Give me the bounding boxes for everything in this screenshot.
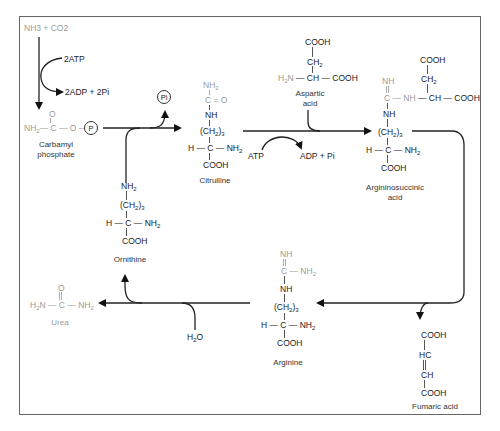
bond xyxy=(209,90,210,95)
bond xyxy=(425,360,426,370)
bond xyxy=(386,86,387,93)
asa-ch2-3: (CH2)3 xyxy=(378,127,403,137)
bond xyxy=(283,259,284,266)
arginine-cnh2: C — NH2 xyxy=(281,266,316,276)
asa-hcnh2: H — C — NH2 xyxy=(366,145,420,155)
adp-label: 2ADP + 2Pi xyxy=(65,87,109,97)
asa-label-2: acid xyxy=(355,193,435,203)
fumaric-hc: HC xyxy=(419,350,431,360)
water-label: H2O xyxy=(187,332,203,342)
aspartic-label-1: Aspartic xyxy=(285,89,335,99)
carbamyl-formula: NH2— C — O — xyxy=(24,123,87,133)
bond xyxy=(427,65,428,74)
citrulline-co: C = O xyxy=(205,95,227,105)
bond xyxy=(209,137,210,143)
pi-circle: Pi xyxy=(157,90,171,104)
bond xyxy=(388,86,389,93)
bond xyxy=(209,153,210,160)
bond xyxy=(59,292,60,300)
ornithine-hcnh2: H — C — NH2 xyxy=(106,218,160,228)
asa-ch2: CH2 xyxy=(421,74,437,84)
ornithine-label: Ornithine xyxy=(105,255,155,265)
bond xyxy=(387,119,388,127)
bond xyxy=(312,66,313,73)
asa-nh-imine: NH xyxy=(382,76,394,86)
asa-nh: NH xyxy=(383,109,395,119)
aspartic-label-2: acid xyxy=(285,99,335,109)
asa-label-1: Argininosuccinic xyxy=(355,183,435,193)
bond xyxy=(209,105,210,110)
asa-cooh-top: COOH xyxy=(420,55,446,65)
asa-main: C — NH — CH — COOH xyxy=(384,93,480,103)
citrulline-cooh: COOH xyxy=(203,160,229,170)
citrulline-nh: NH xyxy=(205,110,217,120)
bond xyxy=(209,120,210,126)
citrulline-nh2: NH2 xyxy=(203,80,219,90)
bond xyxy=(312,47,313,57)
arginine-nh-imine: NH xyxy=(280,249,292,259)
citrulline-hcnh2: H — C — NH2 xyxy=(188,143,242,153)
reactants-nh3-co2: NH3 + CO2 xyxy=(24,23,68,33)
carbamyl-label-1: Carbamyl xyxy=(26,140,86,150)
phosphate-circle: P xyxy=(84,121,98,135)
atp2-label: ATP xyxy=(248,151,264,161)
bond xyxy=(284,276,285,284)
arginine-hcnh2: H — C — NH2 xyxy=(261,320,315,330)
urea-label: Urea xyxy=(40,318,80,328)
aspartic-main: H2N — CH — COOH xyxy=(278,73,358,83)
bond xyxy=(424,340,425,350)
bond xyxy=(126,211,127,218)
arginine-cooh: COOH xyxy=(277,338,303,348)
ornithine-nh2: NH2 xyxy=(121,181,137,191)
bond xyxy=(285,259,286,266)
bond xyxy=(126,191,127,200)
bond xyxy=(284,294,285,302)
citrulline-label: Citrulline xyxy=(185,176,245,186)
atp-label: 2ATP xyxy=(64,54,85,64)
citrulline-ch2-3: (CH2)3 xyxy=(200,126,225,136)
aspartic-ch2: CH2 xyxy=(307,57,323,67)
fumaric-cooh-top: COOH xyxy=(421,330,447,340)
bond xyxy=(387,155,388,163)
bond xyxy=(61,292,62,300)
carbamyl-label-2: phosphate xyxy=(26,150,86,160)
bond xyxy=(387,138,388,145)
bond xyxy=(423,360,424,370)
fumaric-label: Fumaric acid xyxy=(400,402,470,412)
bond xyxy=(284,330,285,338)
urea-formula: H2N — C — NH2 xyxy=(30,300,94,310)
adp2-label: ADP + Pi xyxy=(300,151,335,161)
bond xyxy=(427,84,428,93)
bond xyxy=(126,228,127,236)
aspartic-cooh: COOH xyxy=(305,37,331,47)
ornithine-cooh: COOH xyxy=(122,236,148,246)
asa-cooh: COOH xyxy=(381,163,407,173)
fumaric-ch: CH xyxy=(421,370,433,380)
arginine-ch2-3: (CH2)3 xyxy=(274,302,299,312)
ornithine-ch2-3: (CH2)3 xyxy=(120,200,145,210)
bond xyxy=(424,380,425,388)
fumaric-cooh-bottom: COOH xyxy=(421,388,447,398)
bond xyxy=(284,313,285,320)
arginine-nh: NH xyxy=(280,284,292,294)
arginine-label: Arginine xyxy=(263,358,313,368)
bond xyxy=(387,103,388,109)
